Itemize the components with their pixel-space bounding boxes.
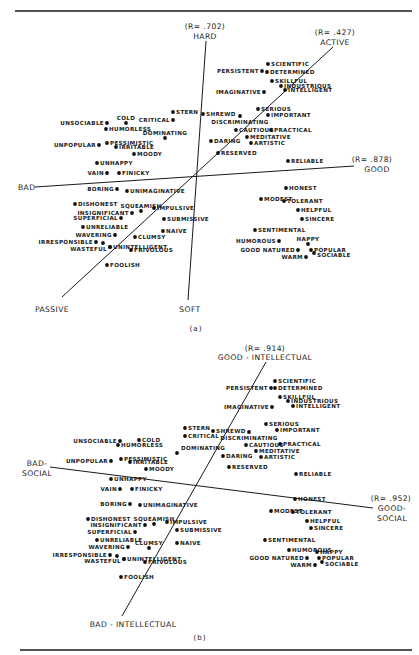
point-marker <box>253 228 257 232</box>
data-point: GOOD NATURED <box>240 247 300 253</box>
data-point: IRRESPONSIBLE <box>39 239 98 245</box>
data-point: WARM <box>290 562 316 568</box>
data-point: DARING <box>209 138 241 144</box>
point-label: HUMOROUS <box>236 238 276 244</box>
data-point: UNHAPPY <box>95 160 133 166</box>
point-label: SUPERFICIAL <box>87 529 132 535</box>
point-label: TOLERANT <box>296 509 332 515</box>
point-marker <box>270 405 274 409</box>
data-point: IMPORTANT <box>266 112 311 118</box>
point-marker <box>291 510 295 514</box>
point-marker <box>129 248 133 252</box>
point-marker <box>273 379 277 383</box>
data-point: SENTIMENTAL <box>253 227 306 233</box>
point-label: SUBMISSIVE <box>167 216 209 222</box>
point-marker <box>81 225 85 229</box>
point-marker <box>95 161 99 165</box>
point-marker <box>105 263 109 267</box>
point-label: ARTISTIC <box>254 140 285 146</box>
point-label: FRIVOLOUS <box>148 559 187 565</box>
axis-label: (R= .878) <box>352 155 393 164</box>
point-marker <box>116 443 120 447</box>
point-marker <box>138 503 142 507</box>
point-label: SENTIMENTAL <box>258 227 306 233</box>
point-marker <box>264 422 268 426</box>
point-marker <box>133 530 137 534</box>
point-label: DETERMINED <box>278 385 323 391</box>
point-label: IMPORTANT <box>280 427 320 433</box>
point-label: PERSISTENT <box>217 68 259 74</box>
data-point: GOOD NATURED <box>249 555 309 561</box>
data-point: INSIGNIFICANT <box>90 522 147 528</box>
point-marker <box>183 434 187 438</box>
point-marker <box>162 217 166 221</box>
data-point: COLD <box>117 115 135 125</box>
data-point: SUBMISSIVE <box>162 216 209 222</box>
data-point: SCIENTIFIC <box>266 61 309 67</box>
point-label: WARM <box>281 254 303 260</box>
point-marker <box>287 548 291 552</box>
point-label: FINICKY <box>135 486 163 492</box>
data-point: DETERMINED <box>273 385 323 391</box>
point-label: IRRITABLE <box>119 144 154 150</box>
point-marker <box>293 497 297 501</box>
data-point: RESERVED <box>216 150 257 156</box>
point-marker <box>124 121 128 125</box>
point-label: CRITICAL <box>139 117 170 123</box>
point-marker <box>247 430 251 434</box>
data-point: MOODY <box>132 151 163 157</box>
point-label: SUBMISSIVE <box>180 527 222 533</box>
point-label: COLD <box>117 115 135 121</box>
point-marker <box>306 242 310 246</box>
point-marker <box>152 206 156 210</box>
data-point: UNPOPULAR <box>66 458 113 464</box>
point-label: SUPERFICIAL <box>73 215 118 221</box>
point-marker <box>254 449 258 453</box>
point-marker <box>108 553 112 557</box>
point-label: HAPPY <box>296 236 320 242</box>
point-marker <box>249 141 253 145</box>
point-label: NAIVE <box>180 540 201 546</box>
point-marker <box>163 136 167 140</box>
data-point: SOCIABLE <box>312 251 351 258</box>
point-label: SINCERE <box>314 525 343 531</box>
axis-label: SOFT <box>179 305 200 314</box>
point-marker <box>105 171 109 175</box>
axis-label: (R= .427) <box>315 28 356 37</box>
point-marker <box>108 245 112 249</box>
axis-label: GOOD - INTELLECTUAL <box>218 353 313 362</box>
axis-label: SOCIAL <box>22 469 53 478</box>
data-point: SOCIABLE <box>320 560 359 567</box>
point-label: IMPULSIVE <box>157 205 194 211</box>
point-marker <box>118 487 122 491</box>
point-label: INTELLIGENT <box>288 87 332 93</box>
data-point: DISHONEST <box>73 201 118 207</box>
point-marker <box>317 556 321 560</box>
point-label: INTELLIGENT <box>296 403 340 409</box>
point-marker <box>130 487 134 491</box>
axis-label: (R= .702) <box>185 22 226 31</box>
data-point: VAIN <box>101 486 122 492</box>
point-marker <box>209 139 213 143</box>
point-label: PERSISTENT <box>226 385 268 391</box>
data-point: FINICKY <box>130 486 163 492</box>
point-marker <box>119 216 123 220</box>
axis-label: BAD <box>18 183 35 192</box>
point-label: DARING <box>214 138 241 144</box>
point-marker <box>256 107 260 111</box>
point-label: GOOD NATURED <box>240 247 295 253</box>
point-label: WAVERING <box>89 544 126 550</box>
data-point: BORING <box>87 186 119 192</box>
point-label: HUMORLESS <box>121 442 163 448</box>
point-marker <box>144 467 148 471</box>
point-marker <box>113 233 117 237</box>
point-marker <box>171 110 175 114</box>
point-label: FOOLISH <box>124 574 154 580</box>
axis-label: PASSIVE <box>35 305 69 314</box>
point-marker <box>265 70 269 74</box>
point-label: RESERVED <box>221 150 257 156</box>
data-point: SINCERE <box>300 216 334 222</box>
axis-label: SOCIAL <box>377 514 408 523</box>
data-point: RELIABLE <box>286 158 323 164</box>
point-marker <box>278 395 282 399</box>
